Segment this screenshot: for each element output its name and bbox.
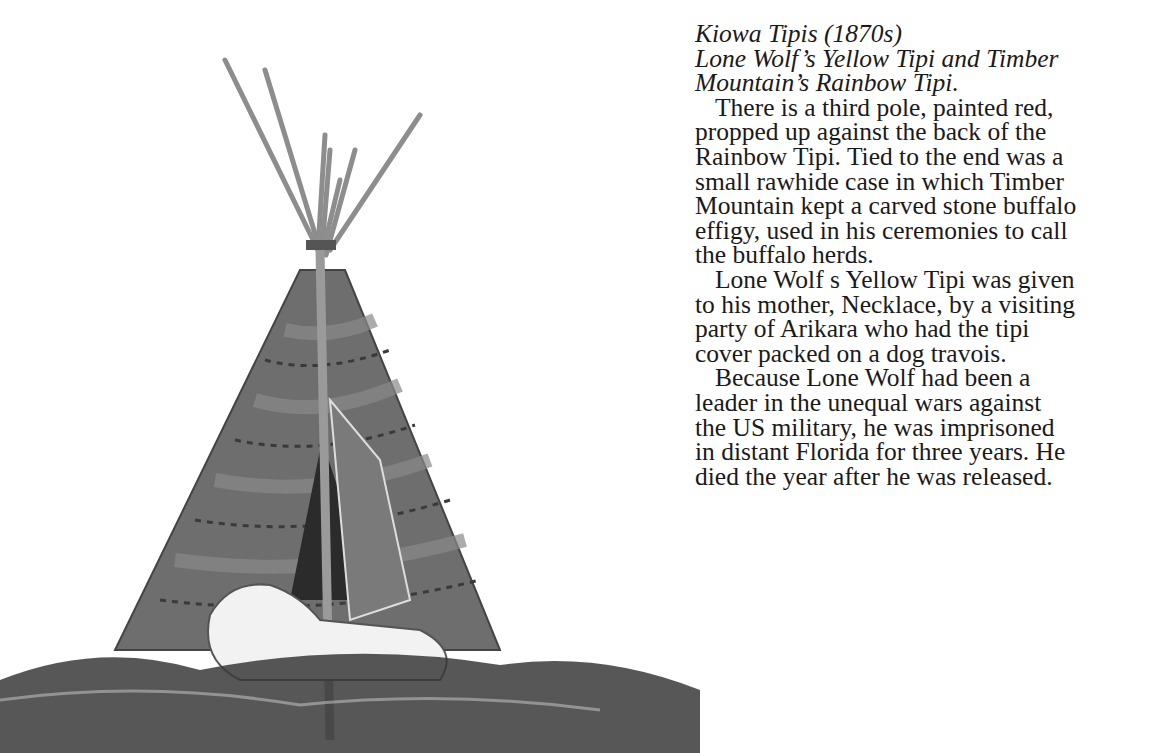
text-line: Lone Wolf s Yellow Tipi was given [695,268,1170,293]
text-line: died the year after he was released. [695,465,1170,490]
text-line: in distant Florida for three years. He [695,440,1170,465]
pole-binding [306,240,336,250]
paragraph-yellow-tipi: Lone Wolf s Yellow Tipi was given to his… [695,268,1170,366]
tipi-illustration [0,40,700,753]
text-line: Rainbow Tipi. Tied to the end was a [695,145,1170,170]
caption-title: Kiowa Tipis (1870s) [695,22,1170,47]
grass [0,654,700,753]
caption-block: Kiowa Tipis (1870s) Lone Wolf’s Yellow T… [695,22,1170,489]
caption-subtitle: Lone Wolf’s Yellow Tipi and Timber Mount… [695,47,1170,96]
tipi-poles [225,60,420,255]
paragraph-third-pole: There is a third pole, painted red, prop… [695,96,1170,268]
paragraph-lone-wolf: Because Lone Wolf had been a leader in t… [695,366,1170,489]
text-line: leader in the unequal wars against [695,391,1170,416]
